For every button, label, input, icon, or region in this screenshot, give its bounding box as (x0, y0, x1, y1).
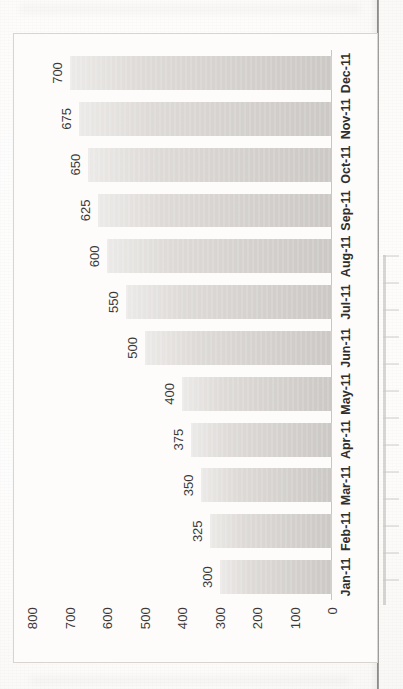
bar-value-label: 625 (78, 200, 93, 222)
category-axis-label: Apr-11 (339, 420, 353, 459)
bar-column: 700Dec-11 (32, 50, 332, 96)
bar: 625 (98, 194, 332, 228)
category-axis-label: Dec-11 (339, 53, 353, 93)
category-axis-label: Jan-11 (339, 558, 353, 597)
bar-value-label: 550 (106, 291, 121, 313)
value-axis-tick-label: 300 (212, 607, 227, 629)
category-axis-label: Jun-11 (339, 328, 353, 368)
bar: 600 (107, 239, 332, 273)
value-axis-tick-label: 100 (287, 607, 302, 629)
bar-value-label: 650 (68, 154, 83, 176)
category-axis-label: May-11 (339, 373, 353, 415)
bar-value-label: 700 (50, 62, 65, 84)
bar: 300 (220, 560, 333, 594)
bar-column: 550Jul-11 (32, 279, 332, 325)
bar-value-label: 600 (87, 245, 102, 267)
category-axis-label: Nov-11 (339, 98, 353, 139)
category-axis-label: Jul-11 (339, 284, 353, 319)
value-axis-tick-label: 400 (175, 607, 190, 629)
bar-value-label: 325 (190, 520, 205, 542)
bar: 675 (79, 102, 332, 136)
bar-column: 400May-11 (32, 371, 332, 417)
bar-value-label: 500 (125, 337, 140, 359)
bar-column: 325Feb-11 (32, 508, 332, 554)
bar: 550 (126, 285, 332, 319)
bar-column: 600Aug-11 (32, 233, 332, 279)
bar-chart: 0100200300400500600700800 300Jan-11325Fe… (13, 33, 378, 663)
category-axis-label: Aug-11 (339, 235, 353, 277)
value-axis-tick-label: 800 (25, 607, 40, 629)
bar-series: 300Jan-11325Feb-11350Mar-11375Apr-11400M… (32, 50, 332, 600)
bar-column: 625Sep-11 (32, 188, 332, 234)
bar: 325 (210, 514, 332, 548)
value-axis-tick-label: 500 (137, 607, 152, 629)
bar-column: 650Oct-11 (32, 142, 332, 188)
category-axis-label: Sep-11 (339, 190, 353, 230)
value-axis-tick-label: 700 (62, 607, 77, 629)
scan-smudge-bottom (30, 676, 350, 685)
category-axis-label: Oct-11 (339, 146, 353, 184)
plot-area: 0100200300400500600700800 300Jan-11325Fe… (32, 50, 332, 600)
bar-column: 500Jun-11 (32, 325, 332, 371)
bar-column: 375Apr-11 (32, 417, 332, 463)
value-axis-tick-label: 600 (100, 607, 115, 629)
bar-value-label: 350 (181, 475, 196, 497)
bar: 375 (191, 423, 332, 457)
bar: 650 (88, 148, 332, 182)
category-axis-label: Feb-11 (339, 511, 353, 551)
bar-value-label: 375 (171, 429, 186, 451)
value-axis-tick-label: 200 (250, 607, 265, 629)
bar-value-label: 300 (200, 566, 215, 588)
scan-smudge-top (20, 4, 360, 14)
category-axis-label: Mar-11 (339, 466, 353, 506)
bar-value-label: 675 (59, 108, 74, 130)
bar-column: 675Nov-11 (32, 96, 332, 142)
value-axis-tick-label: 0 (325, 607, 340, 614)
bar: 700 (70, 56, 333, 90)
bar: 400 (182, 377, 332, 411)
bar: 500 (145, 331, 333, 365)
bar-column: 350Mar-11 (32, 463, 332, 509)
bar-value-label: 400 (162, 383, 177, 405)
bar: 350 (201, 468, 332, 502)
bar-column: 300Jan-11 (32, 554, 332, 600)
adjacent-column-bleedthrough (383, 255, 399, 605)
